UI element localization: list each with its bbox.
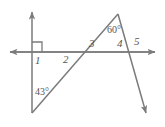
angle-measure-60: 60° <box>107 25 121 35</box>
right-angle-marker <box>32 42 42 52</box>
angle-label-4: 4 <box>117 38 123 49</box>
angle-label-1: 1 <box>35 55 41 66</box>
angle-measure-43: 43° <box>35 87 49 97</box>
diagram-canvas <box>0 0 165 127</box>
ascending-ray <box>32 14 118 113</box>
geometry-diagram: 1 2 3 4 5 43° 60° <box>0 0 165 127</box>
descending-ray <box>118 14 146 113</box>
angle-label-3: 3 <box>89 38 95 49</box>
angle-label-2: 2 <box>63 54 69 65</box>
angle-label-5: 5 <box>134 36 140 47</box>
